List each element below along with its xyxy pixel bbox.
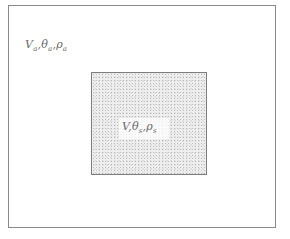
inner-region-label: V,θs,ρs <box>119 118 169 139</box>
outer-region-label: Va,θa,ρa <box>25 38 67 53</box>
inner-temperature-symbol: θ <box>132 120 139 133</box>
ambient-velocity-symbol: V <box>25 38 33 51</box>
inner-density-subscript: s <box>153 127 157 135</box>
ambient-density-symbol: ρ <box>56 38 63 51</box>
inner-density-symbol: ρ <box>146 120 153 133</box>
ambient-density-subscript: a <box>63 45 67 53</box>
